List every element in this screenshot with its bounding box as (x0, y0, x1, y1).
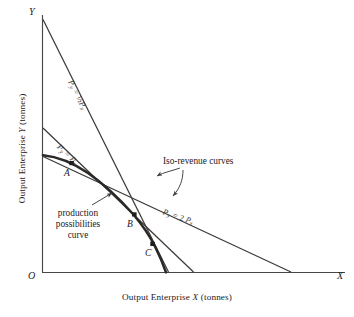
iso-revenue-leader-arrow-lower (173, 170, 183, 196)
tangency-point-markers (69, 161, 155, 246)
production-possibilities-curve (43, 155, 166, 272)
iso-revenue-leader-arrows (157, 168, 183, 196)
ppc-leader-arrow (92, 193, 112, 205)
chart-plot-area (0, 0, 354, 317)
iso-revenue-line-shallow (43, 157, 291, 273)
iso-revenue-leader-arrow-upper (157, 168, 180, 176)
point-marker-C (150, 242, 155, 246)
axis-lines (42, 15, 345, 273)
figure-container: Output Enterprise X (tonnes) Output Ente… (0, 0, 354, 317)
point-marker-B (132, 212, 137, 216)
point-marker-A (69, 161, 74, 165)
